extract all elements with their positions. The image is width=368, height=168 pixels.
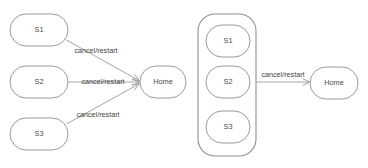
left-state-s3[interactable]: S3 [10,118,68,150]
edge-label-s3: cancel/restart [76,110,119,119]
right-state-s3[interactable]: S3 [206,111,250,143]
state-diagram: S1 S2 S3 Home cancel/restart cancel/rest… [0,0,368,168]
right-edge-group-to-home [257,79,310,85]
edge-label-s2: cancel/restart [81,77,124,86]
state-label: Home [324,78,344,87]
left-state-s1[interactable]: S1 [10,14,68,46]
state-label: S1 [223,36,232,45]
edge-label-s1: cancel/restart [74,46,117,55]
diagram-canvas: S1 S2 S3 Home cancel/restart cancel/rest… [0,0,368,168]
state-label: S3 [34,129,43,138]
right-state-home[interactable]: Home [310,67,358,99]
right-state-s1[interactable]: S1 [206,25,250,57]
state-label: Home [153,77,173,86]
state-label: S3 [223,122,232,131]
edge-label-group: cancel/restart [261,70,304,79]
left-group: S1 S2 S3 Home cancel/restart cancel/rest… [10,14,186,150]
state-label: S1 [34,25,43,34]
left-state-home[interactable]: Home [140,66,186,98]
left-state-s2[interactable]: S2 [10,66,68,98]
right-group: S1 S2 S3 Home cancel/restart [198,14,358,156]
state-label: S2 [34,77,43,86]
state-label: S2 [223,77,232,86]
right-state-s2[interactable]: S2 [206,66,250,98]
